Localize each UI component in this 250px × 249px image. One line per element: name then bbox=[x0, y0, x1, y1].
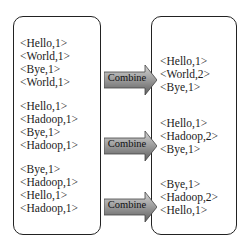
combine-arrow-2: Combine bbox=[104, 131, 157, 161]
input-pair: <World,1> bbox=[20, 76, 70, 89]
input-pair: <Hadoop,1> bbox=[20, 139, 78, 152]
input-pair: <Hello,1> bbox=[20, 100, 67, 113]
output-pair: <Hello,1> bbox=[160, 204, 207, 217]
input-pair: <Hello,1> bbox=[20, 189, 67, 202]
input-pair: <Hadoop,1> bbox=[20, 176, 78, 189]
input-pair: <World,1> bbox=[20, 50, 70, 63]
combine-arrow-1: Combine bbox=[104, 65, 157, 95]
output-pair: <World,2> bbox=[160, 68, 210, 81]
output-pair: <Bye,1> bbox=[160, 178, 200, 191]
combine-arrow-3: Combine bbox=[104, 192, 157, 222]
input-pair: <Bye,1> bbox=[20, 163, 60, 176]
input-pair: <Hadoop,1> bbox=[20, 113, 78, 126]
output-pair: <Hadoop,2> bbox=[160, 130, 218, 143]
input-pair: <Hadoop,1> bbox=[20, 202, 78, 215]
output-pair: <Bye,1> bbox=[160, 81, 200, 94]
output-pair: <Bye,1> bbox=[160, 143, 200, 156]
input-pair: <Hello,1> bbox=[20, 37, 67, 50]
combine-label: Combine bbox=[104, 199, 150, 210]
combine-label: Combine bbox=[104, 138, 150, 149]
output-pair: <Hello,1> bbox=[160, 117, 207, 130]
input-pair: <Bye,1> bbox=[20, 126, 60, 139]
output-pair: <Hello,1> bbox=[160, 55, 207, 68]
combine-label: Combine bbox=[104, 72, 150, 83]
input-pair: <Bye,1> bbox=[20, 63, 60, 76]
output-pair: <Hadoop,2> bbox=[160, 191, 218, 204]
